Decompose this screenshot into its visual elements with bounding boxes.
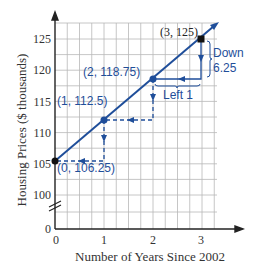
y-tick-105: 105 [33, 157, 51, 171]
x-axis-arrow-icon [235, 226, 243, 232]
arrow-down-icon [198, 55, 204, 62]
down-label: Down [213, 46, 244, 60]
chart: 125 120 115 110 105 100 0 0 1 2 3 Number… [0, 0, 255, 271]
brace-down-icon [207, 41, 212, 77]
arrow-left-icon [178, 76, 185, 82]
y-tick-120: 120 [33, 63, 51, 77]
point-label-0: (0, 106.25) [57, 161, 115, 175]
x-tick-2: 2 [150, 233, 156, 247]
y-tick-100: 100 [33, 188, 51, 202]
arrow-down-icon [101, 135, 107, 142]
y-tick-115: 115 [33, 95, 51, 109]
data-point-3 [198, 36, 205, 43]
y-axis-arrow-icon [52, 12, 58, 20]
y-axis-title: Housing Prices ($ thousands) [14, 54, 29, 207]
step-guide [156, 39, 201, 79]
y-tick-110: 110 [33, 126, 51, 140]
x-tick-labels: 0 1 2 3 [53, 233, 204, 247]
y-tick-labels: 125 120 115 110 105 100 0 [33, 32, 51, 236]
point-label-3: (3, 125) [160, 25, 198, 39]
x-tick-3: 3 [198, 233, 204, 247]
y-tick-0: 0 [45, 222, 51, 236]
x-tick-1: 1 [101, 233, 107, 247]
x-tick-0: 0 [53, 233, 59, 247]
arrow-left-icon [127, 117, 134, 123]
x-axis-title: Number of Years Since 2002 [75, 249, 225, 264]
point-label-1: (1, 112.5) [57, 94, 107, 108]
point-label-2: (2, 118.75) [83, 65, 140, 79]
grid [55, 23, 217, 229]
down-value-label: 6.25 [213, 61, 237, 75]
left-label: Left 1 [163, 88, 193, 102]
y-tick-125: 125 [33, 32, 51, 46]
data-point-2 [150, 76, 157, 83]
arrow-down-icon [150, 94, 156, 101]
data-point-1 [101, 117, 108, 124]
